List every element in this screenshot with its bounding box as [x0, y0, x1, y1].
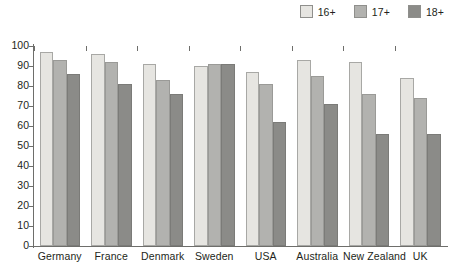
x-axis-label-uk: UK: [395, 250, 447, 263]
y-tick-label: 80: [17, 79, 29, 92]
bar-australia-17plus: [311, 76, 325, 246]
bar-denmark-18plus: [170, 94, 184, 246]
bar-usa-18plus: [273, 122, 287, 246]
legend-label-16plus: 16+: [318, 6, 336, 18]
bar-group: [349, 46, 390, 246]
y-tick-mark: [29, 246, 34, 247]
y-tick-label: 10: [17, 219, 29, 232]
x-axis-label-germany: Germany: [34, 250, 86, 263]
y-tick-label: 0: [23, 239, 29, 252]
legend-swatch-17plus: [354, 5, 367, 18]
y-tick-label: 30: [17, 179, 29, 192]
x-tick-mark: [395, 46, 396, 51]
legend-swatch-18plus: [408, 5, 421, 18]
bar-new-zealand-17plus: [362, 94, 376, 246]
plot-area: 0102030405060708090100 GermanyFranceDenm…: [34, 46, 446, 246]
bar-chart: 16+ 17+ 18+ 0102030405060708090100 Germa…: [0, 0, 452, 272]
x-tick-mark: [343, 46, 344, 51]
bar-australia-16plus: [297, 60, 311, 246]
bar-uk-17plus: [414, 98, 428, 246]
y-tick-label: 40: [17, 159, 29, 172]
x-tick-mark: [292, 46, 293, 51]
bar-group: [143, 46, 184, 246]
x-axis-label-new-zealand: New Zealand: [343, 250, 395, 263]
bar-uk-16plus: [400, 78, 414, 246]
y-tick-mark: [29, 146, 34, 147]
legend-item-16plus: 16+: [300, 5, 336, 18]
y-tick-mark: [29, 166, 34, 167]
x-tick-mark: [240, 46, 241, 51]
bar-france-17plus: [105, 62, 119, 246]
x-tick-mark: [86, 46, 87, 51]
bar-france-16plus: [91, 54, 105, 246]
bar-group: [91, 46, 132, 246]
y-tick-label: 90: [17, 59, 29, 72]
y-tick-mark: [29, 66, 34, 67]
bar-group: [400, 46, 441, 246]
legend-swatch-16plus: [300, 5, 313, 18]
bar-sweden-16plus: [194, 66, 208, 246]
bar-new-zealand-16plus: [349, 62, 363, 246]
x-axis-label-denmark: Denmark: [137, 250, 189, 263]
bar-germany-18plus: [67, 74, 81, 246]
legend-label-18plus: 18+: [426, 6, 444, 18]
chart-legend: 16+ 17+ 18+: [300, 5, 444, 18]
y-tick-label: 60: [17, 119, 29, 132]
y-tick-mark: [29, 206, 34, 207]
y-tick-label: 20: [17, 199, 29, 212]
y-tick-mark: [29, 86, 34, 87]
x-axis-label-france: France: [86, 250, 138, 263]
y-tick-label: 100: [11, 39, 29, 52]
x-tick-mark: [34, 46, 35, 51]
bar-usa-16plus: [246, 72, 260, 246]
bar-group: [194, 46, 235, 246]
legend-item-17plus: 17+: [354, 5, 390, 18]
legend-label-17plus: 17+: [372, 6, 390, 18]
bar-group: [297, 46, 338, 246]
bar-uk-18plus: [427, 134, 441, 246]
bar-germany-17plus: [53, 60, 67, 246]
y-tick-label: 50: [17, 139, 29, 152]
bar-denmark-16plus: [143, 64, 157, 246]
y-tick-label: 70: [17, 99, 29, 112]
legend-item-18plus: 18+: [408, 5, 444, 18]
bar-new-zealand-18plus: [376, 134, 390, 246]
bar-group: [40, 46, 81, 246]
x-axis-line: [33, 246, 448, 247]
y-tick-mark: [29, 226, 34, 227]
y-tick-mark: [29, 186, 34, 187]
x-axis-label-usa: USA: [240, 250, 292, 263]
x-axis-label-sweden: Sweden: [189, 250, 241, 263]
x-axis-label-australia: Australia: [292, 250, 344, 263]
x-tick-mark: [189, 46, 190, 51]
bar-sweden-18plus: [221, 64, 235, 246]
x-tick-mark: [137, 46, 138, 51]
bar-group: [246, 46, 287, 246]
bar-germany-16plus: [40, 52, 54, 246]
bar-usa-17plus: [259, 84, 273, 246]
bar-france-18plus: [118, 84, 132, 246]
bar-denmark-17plus: [156, 80, 170, 246]
bar-australia-18plus: [324, 104, 338, 246]
y-tick-mark: [29, 126, 34, 127]
bar-sweden-17plus: [208, 64, 222, 246]
y-tick-mark: [29, 106, 34, 107]
